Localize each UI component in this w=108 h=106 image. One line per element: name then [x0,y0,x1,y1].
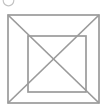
inner-square [28,36,86,92]
figure-canvas [0,0,108,106]
option-circle-marker[interactable] [3,0,14,6]
figure-svg [0,0,108,106]
